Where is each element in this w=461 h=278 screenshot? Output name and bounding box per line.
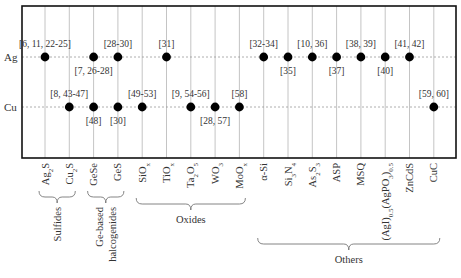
data-point-dot — [89, 103, 98, 112]
group-label-others: Others — [335, 254, 363, 265]
reference-label: [49-53] — [128, 89, 157, 99]
reference-label: [8, 43-47] — [50, 89, 88, 99]
row-label-ag: Ag — [4, 51, 18, 63]
column-label-si3n4: Si3N4 — [283, 163, 298, 187]
column-label-tiox: TiOx — [161, 163, 176, 184]
reference-label: [28, 57] — [200, 116, 230, 126]
reference-label: [59, 60] — [419, 89, 449, 99]
group-brace — [258, 238, 440, 250]
column-label-a-si: α-Si — [258, 163, 269, 181]
column-label-cu2s: Cu2S — [64, 163, 79, 185]
data-point-dot — [162, 53, 171, 62]
group-label-sulfides: Sulfides — [52, 207, 63, 241]
reference-label: [48] — [86, 116, 102, 126]
column-label-asp: ASP — [331, 163, 342, 182]
data-point-dot — [114, 53, 123, 62]
reference-label: [7, 26-28] — [75, 66, 113, 76]
group-label-ge-based-halcogenides: halcogenides — [107, 207, 118, 262]
column-label-ag2s: Ag2S — [40, 163, 55, 185]
data-point-dot — [308, 53, 317, 62]
electrode-material-diagram: AgCu [6, 11, 22-25][7, 26-28][28-30][31]… — [0, 0, 461, 278]
reference-label: [28-30] — [104, 39, 133, 49]
group-label-ge-based-halcogenides: Ge-based — [94, 206, 105, 246]
column-label-siox: SiOx — [137, 163, 152, 183]
column-label-msq: MSQ — [355, 163, 366, 186]
data-point-dot — [259, 53, 268, 62]
column-label-agiagpo3: (AgI)0.5(AgPO3)0.5 — [380, 163, 395, 241]
data-point-dot — [381, 53, 390, 62]
data-point-dot — [284, 53, 293, 62]
reference-label: [38, 39] — [346, 39, 376, 49]
data-point-dot — [138, 103, 147, 112]
group-brace — [136, 198, 245, 210]
column-label-as2s3: As2S3 — [307, 163, 322, 188]
reference-label: [10, 36] — [297, 39, 327, 49]
data-point-dot — [235, 103, 244, 112]
column-label-gese: GeSe — [88, 163, 99, 186]
data-point-dot — [405, 53, 414, 62]
row-label-cu: Cu — [4, 101, 17, 113]
data-point-dot — [186, 103, 195, 112]
reference-label: [41, 42] — [394, 39, 424, 49]
reference-label: [30] — [110, 116, 126, 126]
reference-label: [35] — [280, 66, 296, 76]
group-brace — [39, 191, 75, 203]
column-label-zncds: ZnCdS — [404, 163, 415, 193]
group-label-oxides: Oxides — [176, 214, 206, 225]
column-label-ta2o5: Ta2O5 — [185, 163, 200, 188]
data-points: [6, 11, 22-25][7, 26-28][28-30][31][32-3… — [19, 39, 449, 126]
group-brace — [88, 191, 124, 203]
reference-label: [37] — [329, 66, 345, 76]
data-point-dot — [429, 103, 438, 112]
reference-label: [40] — [377, 66, 393, 76]
row-labels: AgCu — [4, 51, 18, 113]
column-label-cuc: CuC — [428, 163, 439, 182]
data-point-dot — [65, 103, 74, 112]
data-point-dot — [357, 53, 366, 62]
reference-label: [58] — [231, 89, 247, 99]
reference-label: [32-34] — [249, 39, 278, 49]
column-label-ges: GeS — [112, 163, 123, 181]
grid-lines — [22, 6, 456, 158]
reference-label: [9, 54-56] — [172, 89, 210, 99]
data-point-dot — [114, 103, 123, 112]
data-point-dot — [332, 53, 341, 62]
reference-label: [6, 11, 22-25] — [19, 39, 71, 49]
diagram-canvas: AgCu [6, 11, 22-25][7, 26-28][28-30][31]… — [0, 0, 461, 278]
data-point-dot — [211, 103, 220, 112]
data-point-dot — [89, 53, 98, 62]
column-label-moox: MoOx — [234, 163, 249, 189]
data-point-dot — [41, 53, 50, 62]
column-label-wo3: WO3 — [210, 163, 225, 185]
reference-label: [31] — [159, 39, 175, 49]
